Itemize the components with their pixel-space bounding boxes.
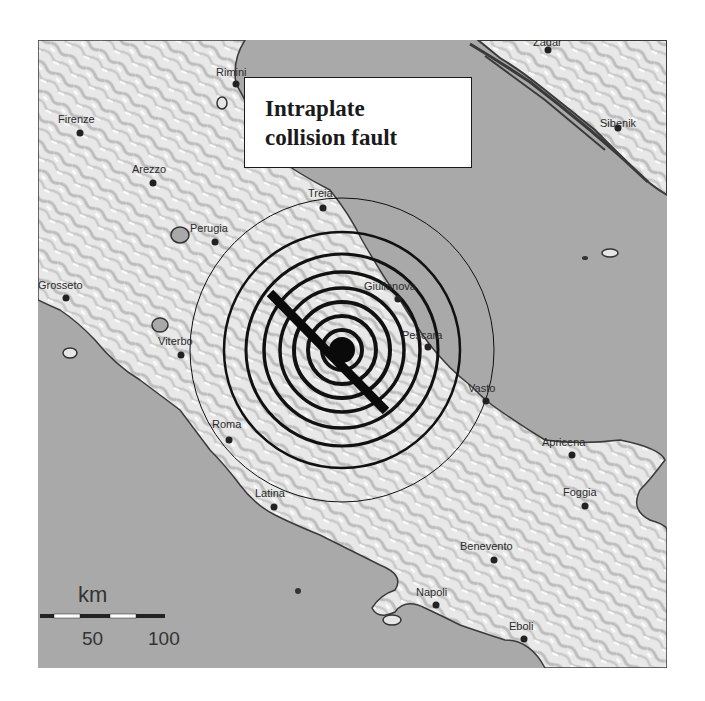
city-label: Giulianova [364, 280, 417, 292]
city-dot-icon [433, 602, 440, 609]
city-dot-icon [150, 180, 157, 187]
city-label: Pescara [402, 329, 443, 341]
city-dot-icon [425, 344, 432, 351]
city-label: Eboli [509, 620, 533, 632]
city-label: Firenze [58, 113, 95, 125]
city-dot-icon [582, 503, 589, 510]
city-dot-icon [569, 452, 576, 459]
city-dot-icon [271, 504, 278, 511]
city-dot-icon [320, 205, 327, 212]
city-label: Vasto [468, 382, 495, 394]
island [602, 249, 618, 257]
city-label: Treia [308, 187, 334, 199]
city-label: Benevento [460, 540, 513, 552]
city-dot-icon [491, 557, 498, 564]
city-dot-icon [395, 296, 402, 303]
city-label: Viterbo [158, 335, 193, 347]
city-label: Sibenik [600, 117, 637, 129]
city-label: Grosseto [38, 279, 83, 291]
island [582, 256, 588, 260]
scale-unit-label: km [78, 582, 107, 607]
city-label: Napoli [416, 586, 447, 598]
city-dot-icon [483, 398, 490, 405]
epicenter-marker [329, 337, 355, 363]
city-label: Foggia [563, 486, 598, 498]
lake-trasimeno [171, 227, 189, 243]
city-label: Arezzo [132, 163, 166, 175]
lake-bolsena [152, 318, 168, 332]
city-label: Roma [212, 418, 242, 430]
city-dot-icon [178, 352, 185, 359]
city-dot-icon [63, 295, 70, 302]
city-label: Zadar [533, 40, 562, 48]
island [63, 348, 77, 358]
san-marino [217, 97, 227, 109]
figure-title-box: Intraplate collision fault [244, 77, 472, 168]
city-dot-icon [521, 636, 528, 643]
city-label: Latina [255, 487, 286, 499]
city-dot-icon [233, 81, 240, 88]
title-line-1: Intraplate [265, 94, 471, 123]
city-dot-icon [226, 437, 233, 444]
city-label: Perugia [190, 222, 229, 234]
city-dot-icon [77, 130, 84, 137]
city-label: Rimini [216, 66, 247, 78]
scale-tick-100: 100 [148, 628, 180, 649]
island [295, 588, 301, 594]
city-dot-icon [212, 239, 219, 246]
city-label: Apricena [542, 436, 586, 448]
title-line-2: collision fault [265, 123, 471, 152]
scale-tick-50: 50 [82, 628, 103, 649]
island [383, 615, 401, 625]
